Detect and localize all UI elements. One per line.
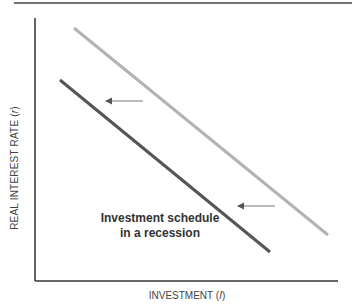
recession-annotation: Investment schedule in a recession: [101, 211, 220, 241]
investment-shift-diagram: [0, 0, 352, 307]
annotation-line-1: Investment schedule: [101, 211, 220, 226]
annotation-line-2: in a recession: [101, 226, 220, 241]
original-investment-line: [74, 28, 328, 235]
y-axis-label: REAL INTEREST RATE (r): [9, 106, 20, 230]
x-axis-label: INVESTMENT (I): [149, 290, 226, 301]
